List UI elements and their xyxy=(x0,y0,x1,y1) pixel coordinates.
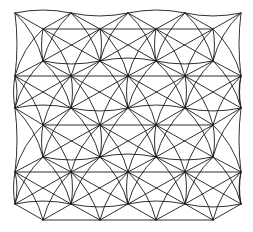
wavy-edge xyxy=(71,108,128,111)
triangle-edge xyxy=(43,13,71,29)
wavy-edge xyxy=(185,108,241,111)
triangle-edge xyxy=(156,13,185,29)
vertical-arc xyxy=(14,76,16,108)
wavy-edge xyxy=(128,10,185,13)
wavy-edge xyxy=(185,13,241,16)
wavy-edge xyxy=(100,154,156,157)
sweep-arc xyxy=(213,108,241,157)
boundary-arc xyxy=(239,108,241,172)
wavy-edge xyxy=(15,105,71,108)
boundary-arc xyxy=(15,108,17,172)
wavy-edge xyxy=(128,105,185,108)
wavy-edge xyxy=(156,157,213,160)
sweep-arc xyxy=(71,76,100,125)
sweep-arc xyxy=(71,108,100,157)
wavy-edge xyxy=(185,204,241,207)
vertical-arc xyxy=(14,172,16,204)
sweep-arc xyxy=(156,108,185,157)
tiling-svg xyxy=(0,0,253,232)
boundary-arc xyxy=(15,13,17,76)
triangle-edge xyxy=(156,108,185,125)
wavy-edge xyxy=(43,61,100,64)
wavy-edge xyxy=(43,157,100,160)
triangle-edge xyxy=(15,13,43,29)
boundary-arc xyxy=(239,13,241,76)
tiling-diagram xyxy=(0,0,253,232)
wavy-edge xyxy=(128,201,185,204)
wavy-edge xyxy=(100,58,156,61)
wavy-edge xyxy=(15,10,71,13)
wavy-edge xyxy=(71,13,128,16)
sweep-arc xyxy=(15,13,43,61)
sweep-arc xyxy=(15,108,43,157)
sweep-arc xyxy=(156,76,185,125)
wavy-edge xyxy=(71,204,128,207)
wavy-edge xyxy=(156,61,213,64)
sweep-arc xyxy=(213,13,241,61)
triangle-edge xyxy=(128,13,156,29)
wavy-edge xyxy=(15,201,71,204)
